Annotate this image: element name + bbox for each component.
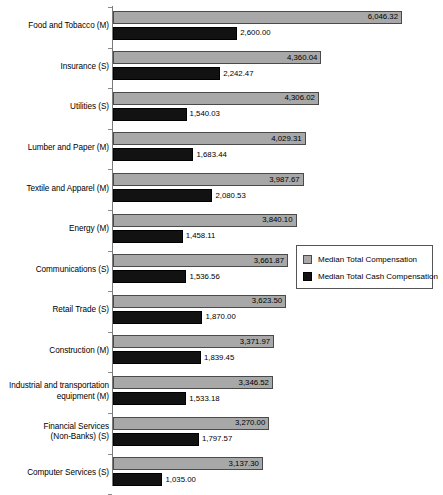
bar-value-total-compensation: 3,840.10 xyxy=(113,215,293,224)
bar-total-cash-compensation xyxy=(113,148,193,161)
category-label: Construction (M) xyxy=(3,331,109,372)
bar-value-total-compensation: 3,137.30 xyxy=(113,459,259,468)
bar-group: 4,306.021,540.03 xyxy=(113,87,443,128)
bar-value-total-compensation: 3,623.50 xyxy=(113,296,282,305)
bar-value-total-cash-compensation: 2,600.00 xyxy=(240,28,270,37)
bar-group: 3,840.101,458.11 xyxy=(113,209,443,250)
category-label-line: Communications (S) xyxy=(36,265,109,275)
bar-value-total-cash-compensation: 1,540.03 xyxy=(190,109,220,118)
category-label-line: Textile and Apparel (M) xyxy=(26,184,109,194)
compensation-bar-chart: Food and Tobacco (M)6,046.322,600.00Insu… xyxy=(0,0,443,495)
bar-total-cash-compensation xyxy=(113,27,237,40)
bar-value-total-compensation: 4,029.31 xyxy=(113,134,302,143)
bar-row: Retail Trade (S)3,623.501,870.00 xyxy=(0,290,443,331)
bar-value-total-cash-compensation: 1,533.18 xyxy=(189,394,219,403)
bar-value-total-cash-compensation: 1,839.45 xyxy=(204,353,234,362)
category-label-line: Lumber and Paper (M) xyxy=(28,143,109,153)
bar-value-total-compensation: 4,306.02 xyxy=(113,93,315,102)
chart-legend: Median Total Compensation Median Total C… xyxy=(296,245,433,289)
bar-row: Financial Services(Non-Banks) (S)3,270.0… xyxy=(0,412,443,453)
bar-total-cash-compensation xyxy=(113,311,202,324)
bar-row: Energy (M)3,840.101,458.11 xyxy=(0,209,443,250)
bar-value-total-cash-compensation: 1,536.56 xyxy=(189,272,219,281)
bar-group: 6,046.322,600.00 xyxy=(113,6,443,47)
bar-group: 3,137.301,035.00 xyxy=(113,453,443,494)
bar-value-total-cash-compensation: 1,035.00 xyxy=(165,475,195,484)
category-label-line: Computer Services (S) xyxy=(27,468,109,478)
bar-value-total-compensation: 3,346.52 xyxy=(113,378,269,387)
category-label-line: Financial Services xyxy=(43,422,109,432)
legend-label-total-cash-compensation: Median Total Cash Compensation xyxy=(318,272,438,281)
bar-group: 4,029.311,683.44 xyxy=(113,128,443,169)
category-label-line: Energy (M) xyxy=(69,224,109,234)
legend-item-total-compensation: Median Total Compensation xyxy=(303,252,426,267)
bar-row: Construction (M)3,371.971,839.45 xyxy=(0,331,443,372)
bar-total-cash-compensation xyxy=(113,473,162,486)
bar-row: Food and Tobacco (M)6,046.322,600.00 xyxy=(0,6,443,47)
category-label: Food and Tobacco (M) xyxy=(3,6,109,47)
bar-value-total-cash-compensation: 1,683.44 xyxy=(196,150,226,159)
bar-total-cash-compensation xyxy=(113,351,201,364)
category-label: Insurance (S) xyxy=(3,47,109,88)
bar-value-total-compensation: 6,046.32 xyxy=(113,12,398,21)
bar-group: 3,270.001,797.57 xyxy=(113,412,443,453)
bar-value-total-compensation: 3,987.67 xyxy=(113,175,300,184)
category-label-line: (Non-Banks) (S) xyxy=(51,432,109,442)
bar-total-cash-compensation xyxy=(113,270,186,283)
legend-item-total-cash-compensation: Median Total Cash Compensation xyxy=(303,269,426,284)
legend-swatch-total-cash-compensation-icon xyxy=(303,272,312,281)
category-label-line: Utilities (S) xyxy=(70,102,109,112)
category-label: Utilities (S) xyxy=(3,87,109,128)
bar-row: Textile and Apparel (M)3,987.672,080.53 xyxy=(0,168,443,209)
category-label: Energy (M) xyxy=(3,209,109,250)
category-label: Computer Services (S) xyxy=(3,453,109,494)
bar-value-total-compensation: 4,360.04 xyxy=(113,53,317,62)
bar-group: 4,360.042,242.47 xyxy=(113,47,443,88)
legend-label-total-compensation: Median Total Compensation xyxy=(318,255,417,264)
category-label-line: equipment (M) xyxy=(57,392,109,402)
bar-value-total-cash-compensation: 1,797.57 xyxy=(202,434,232,443)
category-label-line: Industrial and transportation xyxy=(9,381,109,391)
bar-group: 3,987.672,080.53 xyxy=(113,168,443,209)
bar-total-cash-compensation xyxy=(113,392,186,405)
category-label-line: Construction (M) xyxy=(49,346,109,356)
category-label-line: Food and Tobacco (M) xyxy=(28,21,109,31)
category-label-line: Insurance (S) xyxy=(61,62,110,72)
bar-value-total-cash-compensation: 2,080.53 xyxy=(215,191,245,200)
bar-total-cash-compensation xyxy=(113,189,212,202)
category-label: Industrial and transportationequipment (… xyxy=(3,371,109,412)
bar-value-total-cash-compensation: 1,870.00 xyxy=(205,312,235,321)
category-label: Retail Trade (S) xyxy=(3,290,109,331)
bar-group: 3,371.971,839.45 xyxy=(113,331,443,372)
bar-row: Computer Services (S)3,137.301,035.00 xyxy=(0,453,443,494)
category-label-line: Retail Trade (S) xyxy=(52,305,109,315)
category-label: Financial Services(Non-Banks) (S) xyxy=(3,412,109,453)
bar-value-total-cash-compensation: 1,458.11 xyxy=(186,231,216,240)
bar-value-total-compensation: 3,371.97 xyxy=(113,337,270,346)
legend-swatch-total-compensation-icon xyxy=(303,255,312,264)
bar-group: 3,346.521,533.18 xyxy=(113,371,443,412)
bar-row: Industrial and transportationequipment (… xyxy=(0,371,443,412)
category-label: Lumber and Paper (M) xyxy=(3,128,109,169)
bar-value-total-cash-compensation: 2,242.47 xyxy=(223,69,253,78)
bar-total-cash-compensation xyxy=(113,108,187,121)
category-label: Communications (S) xyxy=(3,250,109,291)
bar-total-cash-compensation xyxy=(113,433,199,446)
bar-value-total-compensation: 3,661.87 xyxy=(113,256,284,265)
category-label: Textile and Apparel (M) xyxy=(3,168,109,209)
bar-row: Lumber and Paper (M)4,029.311,683.44 xyxy=(0,128,443,169)
bar-row: Insurance (S)4,360.042,242.47 xyxy=(0,47,443,88)
bar-total-cash-compensation xyxy=(113,230,183,243)
bar-row: Utilities (S)4,306.021,540.03 xyxy=(0,87,443,128)
bar-group: 3,623.501,870.00 xyxy=(113,290,443,331)
bar-value-total-compensation: 3,270.00 xyxy=(113,418,265,427)
bar-total-cash-compensation xyxy=(113,67,220,80)
